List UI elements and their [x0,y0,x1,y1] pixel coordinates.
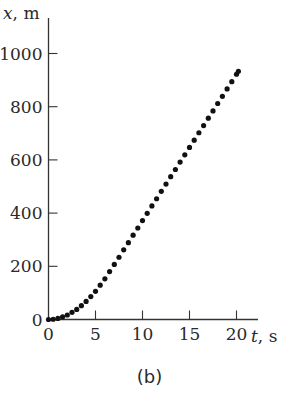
data-point [107,269,112,274]
data-point [196,130,201,135]
data-point [192,138,197,143]
data-point [112,262,117,267]
data-point [229,79,234,84]
x-tick-label: 5 [90,324,101,344]
data-point [60,314,65,319]
data-point [140,218,145,223]
data-point [182,152,187,157]
data-point [88,294,93,299]
data-point [121,247,126,252]
data-point [187,145,192,150]
data-point [98,283,103,288]
data-point [215,101,220,106]
x-tick-label: 20 [226,324,248,344]
data-point [131,233,136,238]
data-point [149,203,154,208]
chart: 02004006008001000 05101520 x, m t, s [0,0,299,406]
data-point [116,255,121,260]
data-point [135,225,140,230]
data-point [206,116,211,121]
data-point [51,317,56,322]
data-point [225,86,230,91]
data-point [46,317,51,322]
data-point [173,167,178,172]
data-point [163,182,168,187]
data-point [55,316,60,321]
data-point [236,69,241,74]
data-point [145,211,150,216]
data-point [65,312,70,317]
data-point [84,299,89,304]
data-point [69,310,74,315]
data-point [168,174,173,179]
data-point [79,303,84,308]
data-point [74,307,79,312]
data-point [220,94,225,99]
data-point [159,189,164,194]
data-point [210,108,215,113]
y-axis-title: x, m [3,3,40,23]
x-axis-title: t, s [251,326,277,346]
y-tick-label: 800 [10,97,42,117]
data-point [126,240,131,245]
figure-caption: (b) [0,366,299,387]
x-tick-label: 15 [179,324,201,344]
data-point [102,276,107,281]
y-tick-label: 600 [10,150,42,170]
y-tick-label: 1000 [0,44,43,64]
data-point [178,159,183,164]
x-tick-label: 10 [132,324,154,344]
x-tick-label: 0 [43,324,54,344]
y-tick-label: 200 [10,256,42,276]
y-tick-label: 0 [32,310,43,330]
y-tick-label: 400 [10,203,42,223]
axes [48,18,258,320]
data-points [46,69,241,322]
data-point [154,196,159,201]
data-point [201,123,206,128]
x-ticks: 05101520 [43,311,247,344]
data-point [93,289,98,294]
